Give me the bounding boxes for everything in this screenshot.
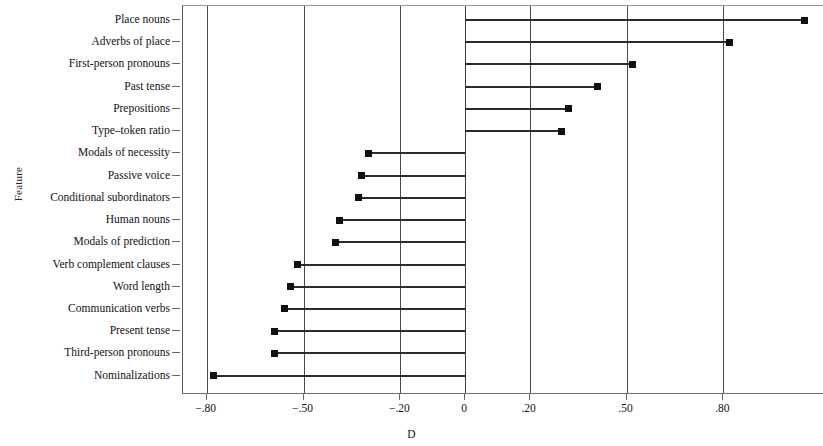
y-axis-tick-label: Word length: [18, 280, 170, 292]
data-point-marker: [558, 128, 565, 135]
y-axis-category-labels: Place nounsAdverbs of placeFirst-person …: [18, 0, 170, 446]
y-axis-tick-label: Third-person pronouns: [18, 346, 170, 358]
lollipop-stem: [465, 19, 804, 21]
x-axis-title: D: [0, 428, 823, 440]
x-axis-tick-label: −.80: [176, 402, 236, 414]
y-axis-tick-label: Human nouns: [18, 213, 170, 225]
y-axis-tick-label: Communication verbs: [18, 302, 170, 314]
x-axis-tick-label: −.50: [273, 402, 333, 414]
x-axis-tick-mark: [303, 394, 304, 400]
lollipop-stem: [465, 86, 597, 88]
data-point-marker: [726, 39, 733, 46]
y-axis-tick-label: Verb complement clauses: [18, 258, 170, 270]
y-axis-tick-mark: [172, 308, 180, 309]
y-axis-tick-label: Type–token ratio: [18, 124, 170, 136]
lollipop-stem: [465, 63, 633, 65]
lollipop-stem: [336, 241, 465, 243]
x-axis-tick-mark: [722, 394, 723, 400]
y-axis-tick-mark: [172, 86, 180, 87]
y-axis-tick-mark: [172, 286, 180, 287]
y-axis-tick-label: First-person pronouns: [18, 57, 170, 69]
gridline: [400, 6, 401, 393]
lollipop-stem: [362, 175, 465, 177]
lollipop-stem: [339, 219, 465, 221]
lollipop-stem: [274, 352, 465, 354]
y-axis-tick-mark: [172, 241, 180, 242]
lollipop-stem: [297, 264, 465, 266]
y-axis-tick-mark: [172, 219, 180, 220]
y-axis-tick-label: Past tense: [18, 80, 170, 92]
data-point-marker: [565, 105, 572, 112]
gridline: [207, 6, 208, 393]
y-axis-tick-label: Present tense: [18, 324, 170, 336]
data-point-marker: [332, 239, 339, 246]
data-point-marker: [210, 372, 217, 379]
y-axis-tick-label: Place nouns: [18, 13, 170, 25]
y-axis-tick-label: Modals of prediction: [18, 235, 170, 247]
y-axis-tick-label: Modals of necessity: [18, 146, 170, 158]
lollipop-stem: [291, 286, 465, 288]
x-axis-tick-mark: [464, 394, 465, 400]
y-axis-tick-mark: [172, 41, 180, 42]
data-point-marker: [271, 350, 278, 357]
data-point-marker: [594, 83, 601, 90]
x-axis-tick-label: −.20: [369, 402, 429, 414]
y-axis-tick-mark: [172, 264, 180, 265]
data-point-marker: [287, 283, 294, 290]
lollipop-stem: [358, 197, 465, 199]
x-axis-tick-mark: [626, 394, 627, 400]
y-axis-tick-mark: [172, 352, 180, 353]
x-axis-tick-mark: [206, 394, 207, 400]
lollipop-stem: [284, 308, 465, 310]
y-axis-tick-mark: [172, 130, 180, 131]
lollipop-stem: [368, 152, 465, 154]
gridline: [304, 6, 305, 393]
gridline: [723, 6, 724, 393]
lollipop-stem: [213, 375, 465, 377]
lollipop-stem: [465, 108, 568, 110]
y-axis-tick-mark: [172, 19, 180, 20]
y-axis-tick-mark: [172, 330, 180, 331]
data-point-marker: [801, 17, 808, 24]
lollipop-stem: [274, 330, 465, 332]
x-axis-tick-mark: [529, 394, 530, 400]
y-axis-tick-label: Passive voice: [18, 169, 170, 181]
y-axis-tick-mark: [172, 175, 180, 176]
x-axis-tick-mark: [399, 394, 400, 400]
y-axis-tick-mark: [172, 108, 180, 109]
data-point-marker: [281, 305, 288, 312]
x-axis-tick-label: .50: [596, 402, 656, 414]
data-point-marker: [629, 61, 636, 68]
y-axis-tick-label: Adverbs of place: [18, 35, 170, 47]
x-axis-tick-label: .80: [692, 402, 752, 414]
data-point-marker: [365, 150, 372, 157]
y-axis-tick-mark: [172, 63, 180, 64]
y-axis-tick-mark: [172, 152, 180, 153]
data-point-marker: [336, 217, 343, 224]
x-axis-tick-label: 0: [434, 402, 494, 414]
plot-area: [182, 5, 823, 394]
x-axis-tick-label: .20: [499, 402, 559, 414]
y-axis-tick-label: Conditional subordinators: [18, 191, 170, 203]
data-point-marker: [355, 194, 362, 201]
y-axis-tick-mark: [172, 197, 180, 198]
lollipop-stem: [465, 41, 730, 43]
data-point-marker: [294, 261, 301, 268]
lollipop-chart-figure: Feature Place nounsAdverbs of placeFirst…: [0, 0, 823, 446]
lollipop-stem: [465, 130, 562, 132]
data-point-marker: [271, 328, 278, 335]
data-point-marker: [358, 172, 365, 179]
y-axis-tick-label: Nominalizations: [18, 369, 170, 381]
y-axis-tick-mark: [172, 375, 180, 376]
y-axis-tick-label: Prepositions: [18, 102, 170, 114]
